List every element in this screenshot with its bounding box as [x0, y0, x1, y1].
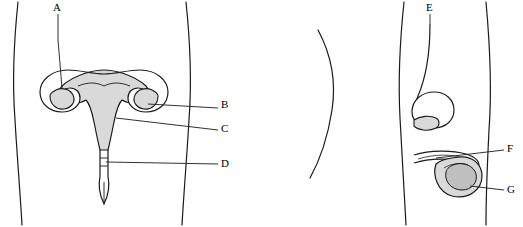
label-g: G	[507, 184, 515, 195]
label-c: C	[221, 123, 229, 134]
figure-canvas: A B C D E F G	[0, 0, 523, 227]
right-ovary-shape	[134, 89, 158, 109]
label-f: F	[507, 143, 513, 154]
left-ovary-shape	[50, 89, 74, 109]
leader-line-c	[116, 118, 218, 130]
label-d: D	[221, 158, 229, 169]
cervix-canal	[100, 150, 108, 176]
male-organs-group	[412, 24, 482, 197]
anatomy-diagram-svg	[0, 0, 523, 227]
prostate-shape	[414, 116, 439, 130]
label-b: B	[221, 99, 229, 110]
uterus-group	[40, 70, 168, 204]
label-a: A	[53, 2, 61, 13]
leader-line-a	[58, 14, 62, 88]
leader-line-d	[106, 162, 218, 164]
label-e: E	[426, 2, 433, 13]
